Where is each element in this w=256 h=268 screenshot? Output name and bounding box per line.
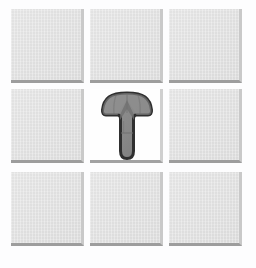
grid-cell-r1c1[interactable] [11,9,88,87]
tile[interactable] [90,172,163,246]
board-title: Grid Puzzle Board [0,0,1,1]
grid-board [11,9,245,251]
grid-cell-r2c3[interactable] [169,89,245,170]
tile[interactable] [90,89,163,163]
tile[interactable] [11,9,84,83]
grid-cell-r3c3[interactable] [169,172,245,251]
tile[interactable] [90,9,163,83]
grid-cell-r2c2[interactable] [90,89,167,170]
tile[interactable] [11,172,84,246]
tile[interactable] [169,172,242,246]
tile[interactable] [169,89,242,163]
grid-cell-r3c2[interactable] [90,172,167,251]
grid-cell-r3c1[interactable] [11,172,88,251]
board-root: Grid Puzzle Board [0,0,256,268]
grid-cell-r1c2[interactable] [90,9,167,87]
grid-cell-r2c1[interactable] [11,89,88,170]
tile[interactable] [169,9,242,83]
grid-cell-r1c3[interactable] [169,9,245,87]
tile[interactable] [11,89,84,163]
